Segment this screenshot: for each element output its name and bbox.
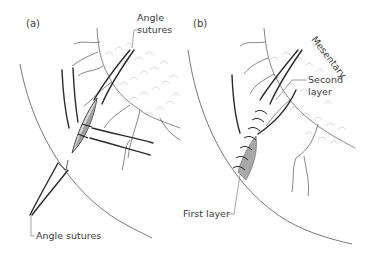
angle-sutures-label-top-line1: Angle xyxy=(137,12,164,23)
angle-sutures-label-top-line2: sutures xyxy=(137,24,172,35)
angle-sutures-label-bottom: Angle sutures xyxy=(36,230,101,241)
surgical-anastomosis-figure: (a) Angle sutures Angle sutures (b) Mese… xyxy=(0,0,374,257)
panel-a-drawing xyxy=(20,28,180,238)
panel-a-label: (a) xyxy=(26,18,40,29)
first-layer-label: First layer xyxy=(183,208,230,219)
second-layer-label-line1: Second xyxy=(308,74,343,85)
panel-b-label: (b) xyxy=(193,18,207,29)
second-layer-label-line2: layer xyxy=(308,86,332,97)
